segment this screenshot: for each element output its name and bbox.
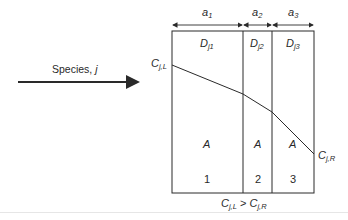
area-label-1: A — [203, 139, 210, 150]
flow-label-var: j — [95, 63, 97, 75]
flow-arrow-icon — [18, 75, 140, 89]
width-label-2: a2 — [252, 7, 262, 20]
right-concentration-label: Cj,R — [318, 150, 335, 163]
condition-label: Cj,L > Cj,R — [221, 198, 267, 211]
layer-number-3: 3 — [290, 174, 296, 185]
layer-number-1: 1 — [204, 174, 210, 185]
diagram-canvas — [0, 0, 348, 220]
diffusivity-label-2: Dj2 — [250, 38, 264, 51]
membrane-box — [172, 31, 314, 193]
left-concentration-label: Cj,L — [151, 58, 167, 71]
width-label-3: a3 — [288, 7, 298, 20]
area-label-2: A — [254, 139, 261, 150]
width-label-1: a1 — [202, 7, 212, 20]
area-label-3: A — [289, 139, 296, 150]
layer-number-2: 2 — [255, 174, 261, 185]
diffusivity-label-3: Dj3 — [286, 38, 300, 51]
diffusivity-label-1: Dj1 — [200, 38, 214, 51]
flow-label: Species, j — [52, 64, 98, 75]
bottom-divider — [0, 212, 348, 213]
flow-label-text: Species, — [52, 63, 95, 75]
